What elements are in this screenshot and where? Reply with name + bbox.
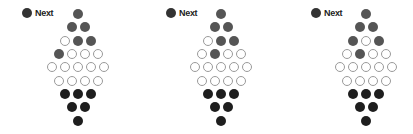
peg-r8-c1-black[interactable] — [67, 102, 77, 112]
next-label: Next — [324, 8, 342, 18]
peg-r1-c1-gray[interactable] — [216, 9, 226, 19]
peg-r7-c1-black[interactable] — [348, 89, 358, 99]
peg-r4-c4-empty[interactable] — [93, 49, 103, 59]
peg-r6-c4-empty[interactable] — [381, 76, 391, 86]
peg-r3-c3-gray[interactable] — [86, 36, 96, 46]
peg-r5-c5-empty[interactable] — [387, 62, 397, 72]
peg-r5-c5-empty[interactable] — [242, 62, 252, 72]
peg-r7-c1-black[interactable] — [203, 89, 213, 99]
peg-r9-c1-black[interactable] — [361, 116, 371, 126]
peg-r6-c3-empty[interactable] — [80, 76, 90, 86]
peg-r5-c1-empty[interactable] — [47, 62, 57, 72]
peg-r4-c3-empty[interactable] — [223, 49, 233, 59]
peg-r5-c3-empty[interactable] — [73, 62, 83, 72]
peg-r5-c2-empty[interactable] — [348, 62, 358, 72]
peg-r5-c1-empty[interactable] — [190, 62, 200, 72]
peg-r3-c1-empty[interactable] — [60, 36, 70, 46]
peg-r5-c3-empty[interactable] — [216, 62, 226, 72]
peg-r5-c2-empty[interactable] — [203, 62, 213, 72]
peg-r4-c3-empty[interactable] — [368, 49, 378, 59]
peg-r4-c4-empty[interactable] — [236, 49, 246, 59]
peg-r9-c1-black[interactable] — [216, 116, 226, 126]
peg-r3-c2-empty[interactable] — [361, 36, 371, 46]
peg-r3-c2-gray[interactable] — [216, 36, 226, 46]
peg-r2-c2-gray[interactable] — [368, 22, 378, 32]
peg-r1-c1-gray[interactable] — [73, 9, 83, 19]
peg-r6-c2-empty[interactable] — [355, 76, 365, 86]
peg-r7-c1-black[interactable] — [60, 89, 70, 99]
peg-r1-c1-gray[interactable] — [361, 9, 371, 19]
peg-r8-c1-black[interactable] — [355, 102, 365, 112]
peg-r3-c1-empty[interactable] — [203, 36, 213, 46]
peg-r2-c1-gray[interactable] — [355, 22, 365, 32]
peg-r6-c1-empty[interactable] — [197, 76, 207, 86]
peg-r7-c2-black[interactable] — [73, 89, 83, 99]
peg-r2-c2-gray[interactable] — [223, 22, 233, 32]
peg-r7-c3-black[interactable] — [374, 89, 384, 99]
next-label: Next — [35, 8, 53, 18]
peg-r5-c3-empty[interactable] — [361, 62, 371, 72]
peg-r5-c5-empty[interactable] — [99, 62, 109, 72]
peg-r4-c2-gray[interactable] — [210, 49, 220, 59]
peg-r5-c4-empty[interactable] — [229, 62, 239, 72]
peg-r3-c1-gray[interactable] — [348, 36, 358, 46]
peg-r6-c2-empty[interactable] — [67, 76, 77, 86]
peg-r6-c4-empty[interactable] — [236, 76, 246, 86]
peg-r5-c2-empty[interactable] — [60, 62, 70, 72]
peg-r8-c2-black[interactable] — [368, 102, 378, 112]
peg-r5-c4-empty[interactable] — [86, 62, 96, 72]
peg-r8-c2-black[interactable] — [223, 102, 233, 112]
peg-r4-c2-gray[interactable] — [355, 49, 365, 59]
peg-r5-c1-empty[interactable] — [335, 62, 345, 72]
peg-r4-c1-empty[interactable] — [197, 49, 207, 59]
peg-r4-c1-empty[interactable] — [342, 49, 352, 59]
peg-r6-c3-empty[interactable] — [223, 76, 233, 86]
peg-r2-c2-gray[interactable] — [80, 22, 90, 32]
next-piece-icon — [22, 8, 32, 18]
peg-r7-c3-black[interactable] — [229, 89, 239, 99]
peg-r3-c2-gray[interactable] — [73, 36, 83, 46]
next-piece-icon — [311, 8, 321, 18]
next-piece-icon — [166, 8, 176, 18]
peg-r4-c4-empty[interactable] — [381, 49, 391, 59]
peg-r6-c3-empty[interactable] — [368, 76, 378, 86]
next-label: Next — [179, 8, 197, 18]
peg-r5-c4-empty[interactable] — [374, 62, 384, 72]
peg-r3-c3-gray[interactable] — [374, 36, 384, 46]
peg-r2-c1-gray[interactable] — [67, 22, 77, 32]
peg-r3-c3-gray[interactable] — [229, 36, 239, 46]
peg-r8-c1-black[interactable] — [210, 102, 220, 112]
peg-r6-c1-empty[interactable] — [54, 76, 64, 86]
peg-r2-c1-gray[interactable] — [210, 22, 220, 32]
peg-r8-c2-black[interactable] — [80, 102, 90, 112]
peg-r6-c2-empty[interactable] — [210, 76, 220, 86]
next-indicator-1: Next — [22, 8, 53, 18]
peg-r9-c1-black[interactable] — [73, 116, 83, 126]
peg-r7-c3-black[interactable] — [86, 89, 96, 99]
next-indicator-2: Next — [166, 8, 197, 18]
peg-r4-c2-empty[interactable] — [67, 49, 77, 59]
peg-r7-c2-black[interactable] — [361, 89, 371, 99]
peg-r4-c3-empty[interactable] — [80, 49, 90, 59]
peg-r4-c1-gray[interactable] — [54, 49, 64, 59]
peg-r6-c4-empty[interactable] — [93, 76, 103, 86]
peg-r6-c1-empty[interactable] — [342, 76, 352, 86]
peg-r7-c2-black[interactable] — [216, 89, 226, 99]
next-indicator-3: Next — [311, 8, 342, 18]
